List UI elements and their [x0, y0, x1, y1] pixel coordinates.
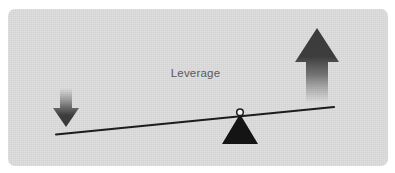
- arrow-up-icon: [295, 28, 339, 103]
- arrow-up-shape: [295, 28, 339, 103]
- lever-diagram-svg: [0, 0, 395, 173]
- leverage-label-text: Leverage: [171, 67, 221, 79]
- leverage-label: Leverage: [0, 67, 395, 79]
- arrow-down-icon: [53, 88, 79, 127]
- arrow-down-shape: [53, 88, 79, 127]
- illustration-stage: Leverage: [0, 0, 395, 173]
- lever-beam: [56, 107, 334, 135]
- pivot-circle: [237, 109, 244, 116]
